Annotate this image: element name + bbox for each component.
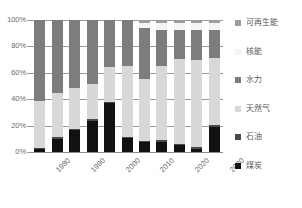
bar-segment-水力: [34, 20, 45, 101]
legend-item-天然气[interactable]: 天然气: [235, 104, 270, 114]
bar-segment-煤炭: [52, 139, 63, 152]
bar-segment-石油: [104, 102, 115, 104]
bar-segment-石油: [34, 148, 45, 149]
bar-segment-水力: [209, 30, 220, 59]
bar-2015[interactable]: [156, 20, 167, 152]
legend-label: 核能: [246, 47, 262, 57]
bar-segment-核能: [209, 23, 220, 29]
bar-1980[interactable]: [34, 20, 45, 152]
bar-segment-天然气: [34, 101, 45, 148]
bar-segment-核能: [139, 23, 150, 28]
bar-segment-石油: [87, 119, 98, 120]
y-axis-tick-label: 80%: [0, 41, 26, 50]
bar-segment-石油: [52, 137, 63, 138]
x-axis-tick-label: 2020: [193, 156, 211, 174]
bar-segment-可再生能: [174, 20, 185, 23]
bar-segment-煤炭: [174, 145, 185, 152]
bar-segment-水力: [139, 28, 150, 79]
legend-label: 水力: [246, 75, 262, 85]
bar-segment-水力: [122, 20, 133, 66]
x-axis-tick-label: 1980: [54, 156, 72, 174]
bar-segment-天然气: [209, 58, 220, 125]
bar-segment-水力: [87, 20, 98, 84]
bar-segment-煤炭: [87, 121, 98, 152]
bar-segment-天然气: [174, 59, 185, 144]
legend-label: 天然气: [246, 104, 270, 114]
legend-label: 石油: [246, 132, 262, 142]
bar-segment-石油: [209, 125, 220, 127]
legend-swatch-icon: [235, 49, 241, 55]
bar-segment-核能: [156, 23, 167, 30]
legend-swatch-icon: [235, 20, 241, 26]
bar-segment-煤炭: [104, 103, 115, 152]
bar-segment-煤炭: [139, 142, 150, 152]
y-axis-tick-label: 60%: [0, 68, 26, 77]
bar-segment-水力: [174, 30, 185, 59]
bar-segment-可再生能: [139, 20, 150, 23]
y-axis-tick-label: 100%: [0, 15, 26, 24]
bar-1990[interactable]: [69, 20, 80, 152]
x-axis-tick-label: 1990: [89, 156, 107, 174]
bar-segment-天然气: [87, 84, 98, 119]
bar-segment-水力: [191, 30, 202, 60]
legend-swatch-icon: [235, 163, 241, 169]
bar-1985[interactable]: [52, 20, 63, 152]
bar-segment-天然气: [52, 93, 63, 137]
bar-1995[interactable]: [87, 20, 98, 152]
x-axis-tick-label: 2010: [158, 156, 176, 174]
bar-segment-石油: [156, 140, 167, 142]
bar-2010[interactable]: [139, 20, 150, 152]
plot-area: [31, 20, 223, 152]
legend-swatch-icon: [235, 77, 241, 83]
bar-segment-石油: [174, 144, 185, 146]
y-axis-tick-label: 40%: [0, 94, 26, 103]
x-axis-line: [31, 152, 223, 153]
bar-segment-可再生能: [191, 20, 202, 23]
bar-segment-水力: [156, 30, 167, 66]
y-axis-tick-label: 0%: [0, 147, 26, 156]
bar-segment-水力: [104, 20, 115, 67]
bar-2005[interactable]: [122, 20, 133, 152]
legend-item-煤炭[interactable]: 煤炭: [235, 161, 262, 171]
bar-segment-天然气: [69, 88, 80, 129]
bar-segment-煤炭: [209, 127, 220, 152]
bar-2030[interactable]: [209, 20, 220, 152]
bar-segment-石油: [69, 129, 80, 130]
y-axis-tick-label: 20%: [0, 121, 26, 130]
legend-swatch-icon: [235, 134, 241, 140]
bar-segment-天然气: [156, 66, 167, 140]
bar-segment-天然气: [139, 79, 150, 141]
bar-segment-煤炭: [69, 130, 80, 152]
bar-segment-水力: [69, 20, 80, 88]
legend-item-水力[interactable]: 水力: [235, 75, 262, 85]
legend-label: 可再生能: [246, 18, 278, 28]
bar-2025[interactable]: [191, 20, 202, 152]
bar-segment-石油: [122, 137, 133, 139]
bar-segment-天然气: [191, 60, 202, 147]
legend-item-核能[interactable]: 核能: [235, 47, 262, 57]
bar-segment-石油: [139, 141, 150, 143]
legend-item-可再生能[interactable]: 可再生能: [235, 18, 278, 28]
bar-segment-水力: [52, 20, 63, 93]
bar-2020[interactable]: [174, 20, 185, 152]
x-axis-tick-label: 2000: [123, 156, 141, 174]
legend-label: 煤炭: [246, 161, 262, 171]
legend-item-石油[interactable]: 石油: [235, 132, 262, 142]
bar-segment-石油: [191, 147, 202, 149]
stacked-bar-chart: 0%20%40%60%80%100% 198019902000201020202…: [0, 0, 302, 208]
bar-segment-煤炭: [122, 138, 133, 152]
bar-2000[interactable]: [104, 20, 115, 152]
bar-segment-可再生能: [156, 20, 167, 23]
bar-segment-核能: [174, 23, 185, 30]
bar-segment-天然气: [122, 66, 133, 136]
bar-segment-可再生能: [209, 20, 220, 23]
bar-segment-核能: [191, 23, 202, 30]
legend-swatch-icon: [235, 106, 241, 112]
bar-segment-煤炭: [156, 142, 167, 152]
bar-segment-天然气: [104, 67, 115, 102]
